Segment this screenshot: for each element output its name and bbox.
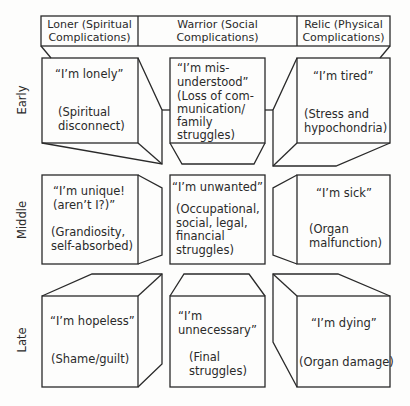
header-warrior: Warrior (Social Complications) xyxy=(138,18,297,44)
late-warrior-quote: “I’m unnecessary” xyxy=(178,309,257,337)
cube-late-relic xyxy=(273,274,390,387)
late-relic-desc: (Organ damage) xyxy=(299,355,394,369)
middle-loner-quote: “I’m unique! (aren’t I?)” xyxy=(53,184,125,212)
cube-late-loner xyxy=(42,274,162,387)
late-warrior-desc: (Final struggles) xyxy=(189,350,247,378)
late-loner-quote: “I’m hopeless” xyxy=(50,314,135,328)
header-relic: Relic (Physical Complications) xyxy=(297,18,390,44)
early-warrior-quote: “I’m mis- understood” xyxy=(177,61,249,89)
middle-warrior-quote: “I’m unwanted” xyxy=(172,180,263,194)
late-relic-quote: “I’m dying” xyxy=(311,316,377,330)
early-relic-desc: (Stress and hypochondria) xyxy=(304,107,387,135)
early-loner-quote: “I’m lonely” xyxy=(55,67,123,81)
early-relic-quote: “I’m tired” xyxy=(313,69,373,83)
row-label-late: Late xyxy=(15,310,29,370)
middle-relic-desc: (Organ malfunction) xyxy=(309,222,382,250)
row-label-early: Early xyxy=(15,70,29,130)
late-loner-desc: (Shame/guilt) xyxy=(51,352,129,366)
early-warrior-desc: (Loss of com- munication/ family struggl… xyxy=(177,90,254,142)
header-connector-left xyxy=(41,46,51,58)
header-loner: Loner (Spiritual Complications) xyxy=(41,18,138,44)
middle-warrior-desc: (Occupational, social, legal, financial … xyxy=(176,203,260,257)
middle-loner-desc: (Grandiosity, self-absorbed) xyxy=(51,225,133,253)
header-connector-right xyxy=(380,46,390,58)
early-loner-desc: (Spiritual disconnect) xyxy=(58,105,125,133)
row-label-middle: Middle xyxy=(15,190,29,250)
middle-relic-quote: “I’m sick” xyxy=(316,186,372,200)
